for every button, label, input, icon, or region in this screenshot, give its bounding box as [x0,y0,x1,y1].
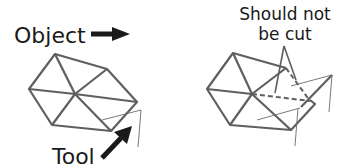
should-not-label-line2: be cut [258,24,312,44]
right-panel: Should not be cut [207,4,332,146]
tool-label: Tool [51,144,95,168]
diagram-svg: Object Tool [0,0,349,168]
object-arrow-icon [91,27,130,41]
object-mesh [29,54,137,131]
cutting-diagram: Object Tool [0,0,349,168]
object-label: Object [14,23,86,48]
left-panel: Object Tool [14,23,141,168]
cut-object-mesh [207,53,332,130]
should-not-label-line1: Should not [239,4,331,24]
